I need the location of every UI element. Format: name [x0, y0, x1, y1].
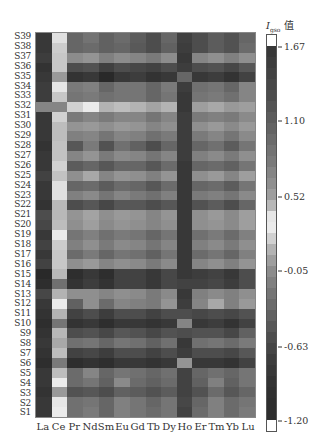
heatmap-cell	[52, 92, 68, 102]
heatmap-cell	[52, 259, 68, 269]
heatmap-cell	[177, 102, 193, 112]
heatmap-cell	[161, 72, 177, 82]
heatmap-cell	[177, 63, 193, 73]
heatmap-cell	[36, 161, 52, 171]
heatmap-cell	[52, 279, 68, 289]
heatmap-cell	[130, 210, 146, 220]
heatmap-cell	[83, 102, 99, 112]
colorbar-title-sub: gso	[270, 26, 281, 33]
heatmap-cell	[67, 309, 83, 319]
heatmap-cell	[146, 338, 162, 348]
heatmap-cell	[161, 338, 177, 348]
heatmap-cell	[36, 200, 52, 210]
colorbar-segment	[267, 35, 276, 46]
heatmap-cell	[161, 250, 177, 260]
heatmap-cell	[67, 161, 83, 171]
heatmap-cell	[99, 309, 115, 319]
heatmap-cell	[161, 82, 177, 92]
heatmap-cell	[224, 328, 240, 338]
heatmap-cell	[208, 112, 224, 122]
heatmap-cell	[208, 299, 224, 309]
heatmap-cell	[52, 122, 68, 132]
heatmap-cell	[130, 33, 146, 43]
colorbar-segment	[267, 387, 276, 398]
heatmap-cell	[192, 191, 208, 201]
colorbar-segment	[267, 123, 276, 134]
heatmap-cell	[146, 289, 162, 299]
heatmap-cell	[36, 63, 52, 73]
heatmap-cell	[36, 191, 52, 201]
heatmap-cell	[177, 220, 193, 230]
heatmap-cell	[52, 200, 68, 210]
heatmap-cell	[36, 358, 52, 368]
colorbar-segment	[267, 343, 276, 354]
colorbar-segment	[267, 277, 276, 288]
heatmap-cell	[146, 171, 162, 181]
heatmap-cell	[208, 102, 224, 112]
heatmap-cell	[146, 210, 162, 220]
heatmap-cell	[177, 33, 193, 43]
heatmap-cell	[239, 161, 255, 171]
heatmap-cell	[192, 319, 208, 329]
heatmap-cell	[192, 328, 208, 338]
colorbar-segment	[267, 189, 276, 200]
column-label: Tm	[208, 421, 224, 432]
colorbar-segment	[267, 255, 276, 266]
heatmap-cell	[114, 210, 130, 220]
heatmap-cell	[83, 378, 99, 388]
heatmap-cell	[67, 397, 83, 407]
heatmap-cell	[36, 289, 52, 299]
heatmap-cell	[36, 378, 52, 388]
heatmap-cell	[239, 289, 255, 299]
heatmap-cell	[208, 397, 224, 407]
heatmap-cell	[67, 250, 83, 260]
heatmap-cell	[52, 210, 68, 220]
heatmap-cell	[83, 299, 99, 309]
heatmap-cell	[52, 338, 68, 348]
colorbar-tick-label: 1.67	[278, 41, 305, 52]
heatmap-cell	[36, 368, 52, 378]
heatmap-cell	[36, 269, 52, 279]
heatmap-cell	[192, 72, 208, 82]
column-label: Yb	[225, 421, 241, 432]
heatmap-cell	[36, 131, 52, 141]
heatmap-cell	[130, 131, 146, 141]
heatmap-cell	[130, 407, 146, 417]
heatmap-cell	[67, 131, 83, 141]
heatmap-cell	[130, 378, 146, 388]
heatmap-cell	[192, 309, 208, 319]
heatmap-cell	[161, 407, 177, 417]
heatmap-cell	[130, 348, 146, 358]
heatmap-cell	[52, 309, 68, 319]
heatmap-cell	[177, 319, 193, 329]
heatmap-cell	[99, 171, 115, 181]
heatmap-cell	[130, 397, 146, 407]
heatmap-cell	[161, 122, 177, 132]
heatmap-cell	[239, 102, 255, 112]
heatmap-cell	[146, 161, 162, 171]
heatmap-cell	[161, 378, 177, 388]
heatmap-cell	[146, 230, 162, 240]
heatmap-cell	[239, 181, 255, 191]
heatmap-cell	[146, 309, 162, 319]
heatmap-cell	[161, 368, 177, 378]
heatmap-cell	[67, 279, 83, 289]
heatmap-cell	[36, 82, 52, 92]
heatmap-cell	[130, 299, 146, 309]
heatmap-cell	[146, 250, 162, 260]
heatmap-cell	[83, 309, 99, 319]
colorbar-tick-label: 0.52	[278, 190, 305, 201]
heatmap-cell	[114, 250, 130, 260]
heatmap-cell	[208, 289, 224, 299]
heatmap-cell	[224, 259, 240, 269]
heatmap-cell	[161, 53, 177, 63]
heatmap-cell	[83, 289, 99, 299]
heatmap-cell	[208, 210, 224, 220]
heatmap-cell	[208, 92, 224, 102]
heatmap-cell	[36, 387, 52, 397]
heatmap-cell	[130, 112, 146, 122]
heatmap-cell	[161, 33, 177, 43]
heatmap-cell	[224, 43, 240, 53]
heatmap-cell	[146, 220, 162, 230]
heatmap-cell	[208, 171, 224, 181]
